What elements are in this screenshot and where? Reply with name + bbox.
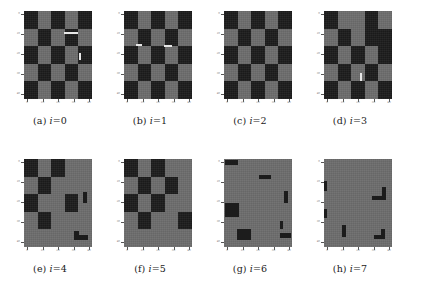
panel-h-caption: (h) i=7 <box>333 263 367 274</box>
dark-blotch <box>225 160 238 165</box>
image-cell <box>338 194 352 212</box>
panel-b: 010203040 010203040 (b) i=1 <box>100 10 200 142</box>
caption-prefix: (g) <box>233 263 250 274</box>
x-tick-label: 30 <box>172 250 175 253</box>
y-tick-label: 10 <box>317 181 320 184</box>
image-cell <box>278 46 292 64</box>
x-tick-label: 30 <box>372 250 375 253</box>
image-cell <box>24 177 38 195</box>
x-tick-label: 40 <box>287 250 290 253</box>
image-cell <box>24 229 38 247</box>
panel-c-y-ticks: 010203040 <box>215 10 224 98</box>
y-tick-label: 30 <box>17 221 20 224</box>
panel-h: 010203040 010203040 (h) i=7 <box>300 158 400 290</box>
panel-h-axes: 010203040 010203040 <box>315 158 393 250</box>
image-cell <box>124 194 138 212</box>
image-cell <box>124 81 138 99</box>
x-tick-label: 40 <box>387 250 390 253</box>
x-tick-label: 30 <box>272 102 275 105</box>
panel-e-x-ticks: 010203040 <box>24 247 92 255</box>
image-cell <box>78 159 92 177</box>
panel-a-x-ticks: 010203040 <box>24 99 92 107</box>
bright-streak <box>64 32 78 34</box>
y-tick-label: 10 <box>217 33 220 36</box>
image-cell <box>78 81 92 99</box>
image-cell <box>338 64 352 82</box>
image-cell <box>351 29 365 47</box>
image-cell <box>24 46 38 64</box>
image-cell <box>178 64 192 82</box>
image-cell <box>224 11 238 29</box>
image-cell <box>165 159 179 177</box>
image-cell <box>138 194 152 212</box>
caption-value: =1 <box>153 115 167 126</box>
bright-streak <box>79 53 81 60</box>
x-tick-label: 20 <box>156 250 159 253</box>
image-cell <box>238 29 252 47</box>
y-tick-label: 20 <box>117 201 120 204</box>
image-cell <box>138 177 152 195</box>
y-tick-label: 20 <box>17 53 20 56</box>
dark-blotch <box>225 203 239 217</box>
image-cell <box>324 229 338 247</box>
image-cell <box>38 81 52 99</box>
caption-prefix: (a) <box>33 115 50 126</box>
y-tick-label: 30 <box>117 221 120 224</box>
image-cell <box>65 177 79 195</box>
figure-row-bottom: 010203040 010203040 (e) i=4 010203040 01… <box>0 150 421 297</box>
panel-g-x-ticks: 010203040 <box>224 247 292 255</box>
image-cell <box>178 177 192 195</box>
image-cell <box>165 229 179 247</box>
caption-value: =2 <box>253 115 267 126</box>
x-tick-label: 0 <box>126 102 128 105</box>
x-tick-label: 10 <box>141 102 144 105</box>
image-cell <box>238 177 252 195</box>
image-cell <box>51 64 65 82</box>
image-cell <box>324 159 338 177</box>
image-cell <box>124 11 138 29</box>
image-cell <box>38 229 52 247</box>
image-cell <box>65 159 79 177</box>
y-tick-label: 20 <box>317 201 320 204</box>
x-tick-label: 0 <box>26 250 28 253</box>
x-tick-label: 40 <box>387 102 390 105</box>
image-cell <box>51 11 65 29</box>
y-tick-label: 10 <box>117 33 120 36</box>
image-cell <box>351 159 365 177</box>
image-cell <box>278 159 292 177</box>
panel-f-caption: (f) i=5 <box>134 263 166 274</box>
image-cell <box>378 81 392 99</box>
image-cell <box>378 212 392 230</box>
image-cell <box>365 177 379 195</box>
y-tick-label: 40 <box>17 241 20 244</box>
image-cell <box>265 46 279 64</box>
image-cell <box>365 11 379 29</box>
y-tick-label: 20 <box>117 53 120 56</box>
panel-c: 010203040 010203040 (c) i=2 <box>200 10 300 142</box>
x-tick-label: 30 <box>172 102 175 105</box>
y-tick-label: 0 <box>18 161 20 164</box>
y-tick-label: 10 <box>17 33 20 36</box>
x-tick-label: 20 <box>56 102 59 105</box>
image-cell <box>151 194 165 212</box>
dark-blotch <box>284 191 288 203</box>
image-cell <box>51 81 65 99</box>
caption-value: =4 <box>53 263 67 274</box>
panel-f-x-ticks: 010203040 <box>124 247 192 255</box>
image-cell <box>165 64 179 82</box>
image-cell <box>38 159 52 177</box>
image-cell <box>351 177 365 195</box>
x-tick-label: 10 <box>341 102 344 105</box>
x-tick-label: 10 <box>141 250 144 253</box>
image-cell <box>78 11 92 29</box>
image-cell <box>224 64 238 82</box>
image-cell <box>151 177 165 195</box>
image-cell <box>124 212 138 230</box>
image-cell <box>65 64 79 82</box>
image-cell <box>38 64 52 82</box>
panel-h-x-ticks: 010203040 <box>324 247 392 255</box>
image-cell <box>351 212 365 230</box>
y-tick-label: 40 <box>117 93 120 96</box>
image-cell <box>365 81 379 99</box>
image-cell <box>165 212 179 230</box>
